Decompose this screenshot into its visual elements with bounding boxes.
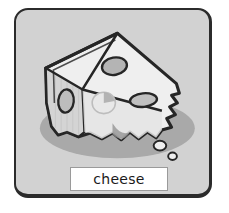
label-box: cheese — [70, 167, 168, 191]
crumb-small — [168, 153, 177, 160]
crumb-large — [154, 141, 167, 151]
word-label: cheese — [93, 172, 145, 186]
flashcard: cheese — [14, 8, 212, 198]
